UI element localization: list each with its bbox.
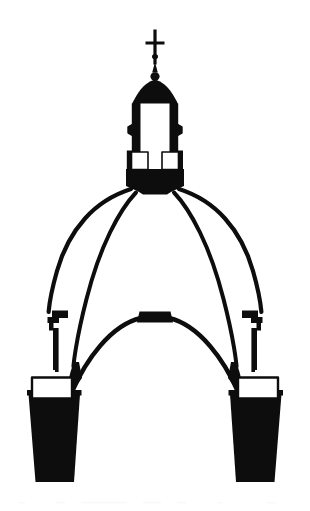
pier-shoulder-right bbox=[236, 399, 280, 405]
pier-shoulder-left bbox=[30, 399, 74, 405]
lantern-buttress-left bbox=[128, 125, 137, 136]
pier-left-mass bbox=[29, 394, 81, 482]
cross-knop bbox=[152, 54, 158, 59]
finial-sphere bbox=[150, 72, 159, 80]
lantern-pilaster-right bbox=[173, 135, 176, 153]
cross-arm bbox=[146, 42, 165, 45]
lantern-buttress-right bbox=[174, 125, 183, 136]
pier-window-right bbox=[238, 378, 278, 399]
lantern-window-right bbox=[162, 152, 179, 170]
scan-noise-band bbox=[0, 493, 310, 507]
cornice-shaft-right bbox=[251, 328, 255, 372]
vault-keystone bbox=[137, 312, 173, 323]
dome-cross-section-drawing: Cross-section of a double-shell masonry … bbox=[0, 0, 310, 511]
pier-window-left bbox=[32, 378, 72, 399]
figure-root: Cross-section of a double-shell masonry … bbox=[0, 0, 310, 511]
pier-right-mass bbox=[230, 394, 282, 482]
cross-shaft bbox=[153, 30, 156, 65]
lantern-window-left bbox=[132, 152, 149, 170]
cornice-shaft-left bbox=[55, 328, 59, 372]
lantern-pilaster-left bbox=[134, 135, 137, 153]
